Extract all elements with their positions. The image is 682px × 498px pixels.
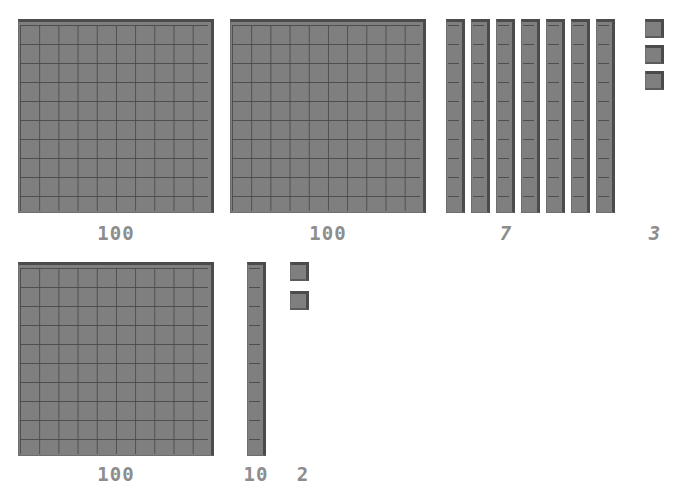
ones-cubes-label: 3 (615, 224, 682, 243)
block-grid-lines (232, 25, 420, 211)
block-grid-lines (548, 25, 559, 211)
tens-rod-block (496, 19, 515, 213)
tens-rod-block (247, 262, 266, 456)
hundreds-flat-block (18, 262, 214, 456)
ones-cube-block (645, 45, 664, 64)
block-grid-lines (20, 25, 208, 211)
block-face (230, 19, 426, 213)
hundreds-flat-label: 100 (268, 224, 388, 243)
block-face (471, 19, 490, 213)
tens-rod-block (546, 19, 565, 213)
block-face (247, 262, 266, 456)
block-grid-lines (523, 25, 534, 211)
hundreds-flat-block (230, 19, 426, 213)
ones-cube-block (645, 71, 664, 90)
tens-rod-block (446, 19, 465, 213)
hundreds-flat-label: 100 (56, 465, 176, 484)
block-face (521, 19, 540, 213)
block-face (496, 19, 515, 213)
block-grid-lines (498, 25, 509, 211)
block-face (446, 19, 465, 213)
tens-rod-block (521, 19, 540, 213)
block-face (290, 291, 309, 310)
ones-cubes-label: 2 (283, 465, 323, 484)
block-grid-lines (20, 268, 208, 454)
tens-rod-label: 10 (226, 465, 286, 484)
tens-rods-label: 7 (466, 224, 546, 243)
block-face (290, 262, 309, 281)
block-face (546, 19, 565, 213)
block-face (596, 19, 615, 213)
block-face (571, 19, 590, 213)
base-ten-blocks-canvas: 100 100 (0, 0, 682, 498)
block-face (645, 71, 664, 90)
tens-rod-block (471, 19, 490, 213)
block-face (18, 262, 214, 456)
block-face (18, 19, 214, 213)
tens-rod-block (596, 19, 615, 213)
block-face (645, 19, 664, 38)
ones-cube-block (645, 19, 664, 38)
block-grid-lines (598, 25, 609, 211)
block-grid-lines (473, 25, 484, 211)
hundreds-flat-block (18, 19, 214, 213)
block-grid-lines (573, 25, 584, 211)
ones-cube-block (290, 262, 309, 281)
block-grid-lines (448, 25, 459, 211)
tens-rod-block (571, 19, 590, 213)
block-grid-lines (249, 268, 260, 454)
block-face (645, 45, 664, 64)
ones-cube-block (290, 291, 309, 310)
hundreds-flat-label: 100 (56, 224, 176, 243)
